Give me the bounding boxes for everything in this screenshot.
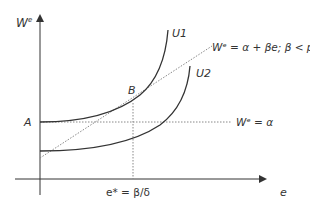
indifference-curve-diagram: We e A B U1 U2 Wᵉ = α + βe; β < p Wᵉ = α…	[0, 0, 310, 210]
curve-u1	[40, 30, 168, 122]
u1-label: U1	[172, 28, 187, 39]
e-star-label: e* = β/δ	[106, 187, 150, 198]
flat-wage-label: Wᵉ = α	[236, 117, 273, 128]
y-axis-label: We	[16, 17, 32, 29]
point-a-label: A	[24, 117, 32, 128]
point-b-label: B	[128, 85, 136, 96]
wage-rule-line	[40, 46, 212, 158]
u2-label: U2	[196, 68, 211, 79]
wage-rule-label: Wᵉ = α + βe; β < p	[212, 42, 310, 53]
x-axis-label: e	[280, 187, 287, 198]
diagram-canvas	[0, 0, 310, 210]
curve-u2	[40, 66, 190, 151]
